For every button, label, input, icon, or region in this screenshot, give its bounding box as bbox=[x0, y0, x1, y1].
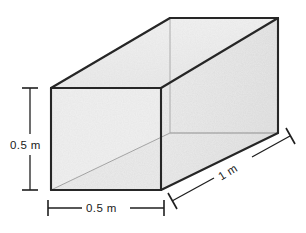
dimension-label-height: 0.5 m bbox=[8, 139, 43, 153]
technical-drawing-figure: 0.5 m 0.5 m 1 m bbox=[0, 0, 306, 233]
dimension-length-tick-near bbox=[168, 193, 177, 209]
duct-body bbox=[51, 18, 278, 190]
duct-illustration bbox=[0, 0, 306, 233]
dimension-label-width: 0.5 m bbox=[84, 202, 119, 216]
dimension-length-tick-far bbox=[286, 128, 295, 144]
